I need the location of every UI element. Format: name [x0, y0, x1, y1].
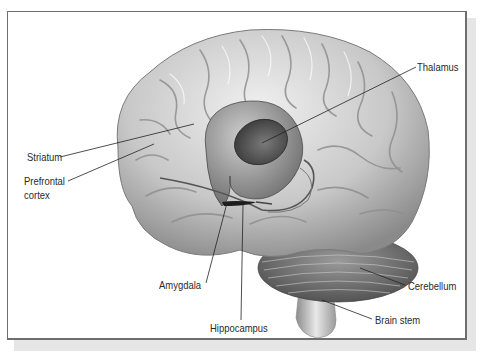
label-striatum: Striatum — [27, 151, 62, 164]
label-thalamus: Thalamus — [417, 61, 458, 74]
label-prefrontal-cortex-line1: Prefrontal — [24, 175, 65, 188]
label-cerebellum: Cerebellum — [408, 280, 456, 293]
label-prefrontal-cortex-line2: cortex — [24, 189, 50, 202]
label-hippocampus: Hippocampus — [210, 322, 268, 335]
label-brain-stem: Brain stem — [375, 314, 420, 327]
label-amygdala: Amygdala — [159, 279, 201, 292]
brain-illustration — [0, 0, 482, 355]
